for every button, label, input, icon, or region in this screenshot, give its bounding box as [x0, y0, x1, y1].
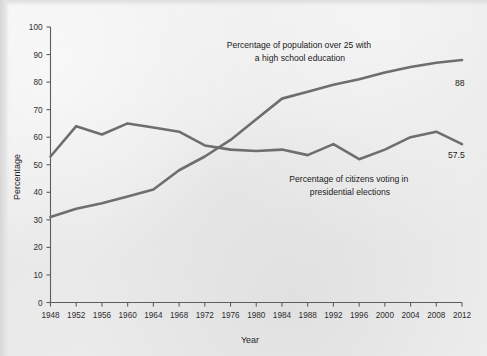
y-axis: 0102030405060708090100 Percentage	[12, 23, 51, 308]
education-end-label: 88	[455, 78, 465, 88]
education-line	[51, 60, 463, 217]
x-tick-label: 1984	[273, 311, 292, 320]
x-tick-label: 2012	[453, 311, 472, 320]
x-tick-label: 1964	[144, 311, 163, 320]
x-tick-label: 1960	[119, 311, 138, 320]
x-tick-label: 1956	[93, 311, 112, 320]
y-tick-label: 40	[33, 188, 43, 197]
y-tick-label: 60	[33, 133, 43, 142]
x-tick-label: 1972	[196, 311, 215, 320]
x-tick-label: 2000	[376, 311, 395, 320]
x-tick-label: 1992	[324, 311, 343, 320]
y-tick-label: 50	[33, 161, 43, 170]
y-tick-label: 30	[33, 216, 43, 225]
data-labels-group: 88 57.5	[448, 78, 465, 160]
y-tick-label: 100	[29, 23, 43, 32]
y-axis-title: Percentage	[12, 154, 22, 200]
x-tick-label: 2008	[427, 311, 446, 320]
voting-annotation: Percentage of citizens voting in preside…	[289, 174, 410, 197]
annotations-group: Percentage of population over 25 with a …	[227, 40, 411, 197]
education-annotation: Percentage of population over 25 with a …	[227, 40, 374, 63]
x-tick-label: 1980	[247, 311, 266, 320]
x-axis: 1948195219561960196419681972197619801984…	[41, 303, 471, 346]
y-tick-label: 0	[38, 299, 43, 308]
chart-figure: 0102030405060708090100 Percentage 194819…	[0, 0, 487, 356]
x-tick-label: 1996	[350, 311, 369, 320]
y-tick-label: 20	[33, 243, 43, 252]
x-tick-label: 1976	[221, 311, 240, 320]
y-tick-label: 90	[33, 51, 43, 60]
data-series-group	[51, 60, 463, 217]
x-axis-ticks: 1948195219561960196419681972197619801984…	[41, 303, 471, 320]
x-tick-label: 1988	[299, 311, 318, 320]
y-tick-label: 80	[33, 78, 43, 87]
x-tick-label: 1948	[41, 311, 60, 320]
y-axis-ticks: 0102030405060708090100	[29, 23, 51, 308]
voting-line	[51, 123, 463, 159]
line-chart: 0102030405060708090100 Percentage 194819…	[0, 0, 487, 356]
x-tick-label: 2004	[401, 311, 420, 320]
x-axis-title: Year	[241, 335, 259, 345]
y-tick-label: 10	[33, 271, 43, 280]
x-tick-label: 1952	[67, 311, 86, 320]
x-tick-label: 1968	[170, 311, 189, 320]
y-tick-label: 70	[33, 106, 43, 115]
voting-end-label: 57.5	[448, 150, 465, 160]
